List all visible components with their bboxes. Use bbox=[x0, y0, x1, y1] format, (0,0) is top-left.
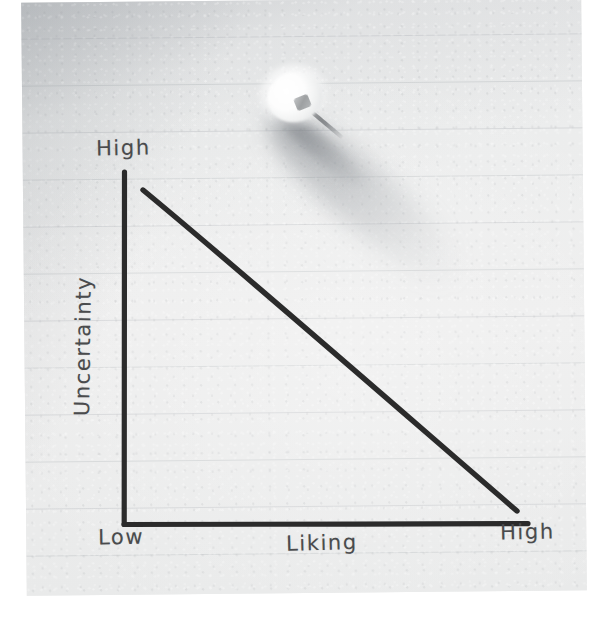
paper-grain-texture bbox=[21, 0, 587, 596]
y-axis-high-label: High bbox=[96, 135, 151, 160]
x-axis-low-label: Low bbox=[98, 525, 145, 550]
x-axis-title: Liking bbox=[286, 530, 358, 556]
y-axis-title: Uncertainty bbox=[70, 276, 96, 417]
paper-sheet bbox=[21, 0, 587, 596]
ruled-lines bbox=[21, 0, 587, 596]
x-axis-high-label: High bbox=[500, 519, 555, 544]
paper-lighting-gradient bbox=[21, 0, 587, 596]
sticky-note-scene: High Uncertainty Low Liking High bbox=[0, 0, 607, 629]
